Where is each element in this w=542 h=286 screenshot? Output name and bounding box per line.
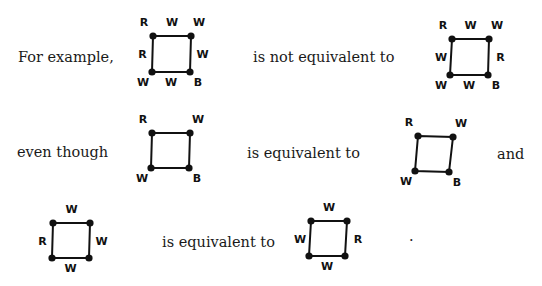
color-label-tl: R [439, 19, 448, 32]
vertex-dot-bl [147, 164, 154, 171]
colored-square-3: RWBW [136, 113, 204, 185]
vertex-dot-bl [305, 252, 312, 259]
color-label-bottom: W [321, 260, 333, 273]
vertex-dot-bl [48, 254, 55, 261]
vertex-dot-tl [49, 219, 56, 226]
color-label-br: B [492, 79, 500, 92]
color-label-bottom: W [64, 262, 76, 275]
color-label-right: W [95, 235, 107, 248]
color-label-left: R [138, 48, 147, 61]
vertex-dot-tl [307, 217, 314, 224]
vertex-dot-tr [343, 217, 350, 224]
vertex-dot-br [445, 168, 452, 175]
color-label-tr: W [455, 117, 467, 130]
color-label-bl: W [137, 76, 149, 89]
color-label-left: W [294, 233, 306, 246]
vertex-dot-tr [187, 32, 194, 39]
vertex-dot-tr [86, 219, 93, 226]
vertex-dot-bl [446, 71, 453, 78]
color-label-left: W [435, 51, 447, 64]
colored-square-5: WWWR [38, 203, 107, 275]
vertex-dot-tl [448, 35, 455, 42]
square-edges [415, 136, 453, 172]
color-label-right: W [196, 48, 208, 61]
color-label-tr: W [192, 113, 204, 126]
color-label-right: R [354, 233, 363, 246]
color-label-br: B [193, 172, 201, 185]
color-label-tl: R [139, 113, 148, 126]
color-label-bl: W [400, 175, 412, 188]
vertex-dot-tl [149, 32, 156, 39]
vertex-dot-br [185, 164, 192, 171]
color-label-bottom: W [165, 76, 177, 89]
vertex-dot-tl [148, 129, 155, 136]
squares-layer: RWWWBWWRRWWRBWWWRWBWRWBWWWWRWRWW [0, 0, 542, 286]
color-label-tl: R [140, 16, 149, 29]
square-edges [450, 39, 489, 75]
colored-square-2: RWWRBWWW [435, 19, 505, 92]
square-edges [52, 223, 90, 258]
color-label-top: W [323, 201, 335, 214]
color-label-br: B [453, 176, 461, 189]
color-label-top: W [464, 19, 476, 32]
color-label-left: R [38, 235, 47, 248]
vertex-dot-br [85, 254, 92, 261]
vertex-dot-br [341, 252, 348, 259]
vertex-dot-tr [449, 133, 456, 140]
square-edges [152, 36, 191, 72]
vertex-dot-br [186, 68, 193, 75]
color-label-bl: W [435, 79, 447, 92]
color-label-tl: R [405, 116, 414, 129]
color-label-br: B [194, 76, 202, 89]
color-label-top: W [166, 16, 178, 29]
color-label-tr: W [491, 19, 503, 32]
vertex-dot-bl [411, 167, 418, 174]
square-edges [151, 133, 190, 168]
color-label-bl: W [136, 172, 148, 185]
vertex-dot-tl [414, 132, 421, 139]
colored-square-6: WRWW [294, 201, 363, 273]
color-label-tr: W [193, 16, 205, 29]
vertex-dot-br [484, 71, 491, 78]
vertex-dot-tr [485, 35, 492, 42]
color-label-bottom: W [463, 79, 475, 92]
color-label-top: W [65, 203, 77, 216]
equivalence-example-figure: For example, is not equivalent to even t… [0, 0, 542, 286]
color-label-right: R [496, 51, 505, 64]
square-edges [309, 221, 347, 256]
colored-square-4: RWBW [400, 116, 467, 189]
vertex-dot-bl [148, 68, 155, 75]
colored-square-1: RWWWBWWR [137, 16, 209, 89]
vertex-dot-tr [186, 129, 193, 136]
